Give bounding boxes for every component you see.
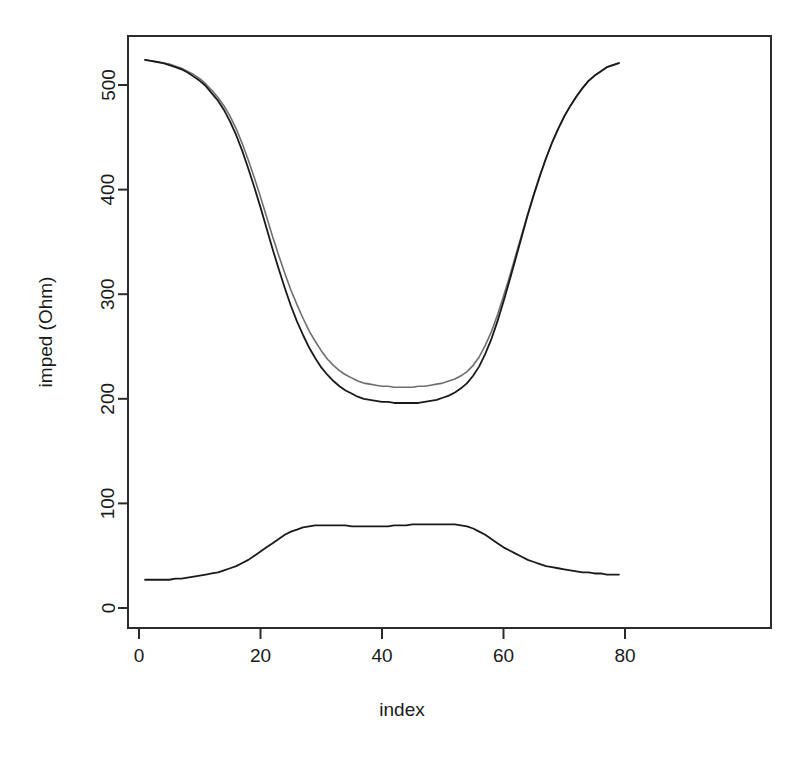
y-axis-title: imped (Ohm): [35, 277, 56, 388]
x-tick-label-20: 20: [250, 645, 271, 666]
y-tick-label-100: 100: [98, 488, 119, 520]
x-tick-label-80: 80: [614, 645, 635, 666]
x-tick-label-40: 40: [371, 645, 392, 666]
x-tick-label-0: 0: [134, 645, 145, 666]
chart-title: [0, 0, 804, 2]
y-tick-label-500: 500: [98, 69, 119, 101]
series-imped-lower-black: [145, 60, 619, 403]
chart-plot-area: 0100200300400500 020406080 index imped (…: [0, 0, 804, 764]
x-tick-label-60: 60: [493, 645, 514, 666]
x-axis-ticks: 020406080: [134, 628, 636, 666]
x-axis-title: index: [379, 699, 425, 720]
plot-frame: [128, 36, 771, 628]
series-phase-lower-curve: [145, 524, 619, 579]
y-tick-label-400: 400: [98, 174, 119, 206]
y-tick-label-200: 200: [98, 383, 119, 415]
y-tick-label-0: 0: [98, 603, 119, 614]
y-tick-label-300: 300: [98, 278, 119, 310]
y-axis-ticks: 0100200300400500: [98, 69, 129, 613]
series-imped-upper-gray: [145, 60, 619, 387]
line-chart: 0100200300400500 020406080 index imped (…: [0, 0, 804, 764]
data-series-group: [145, 60, 619, 580]
